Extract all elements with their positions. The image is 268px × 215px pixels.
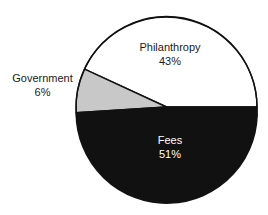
pie-label-philanthropy-value: 43% [110, 54, 230, 68]
pie-label-fees-name: Fees [120, 133, 220, 147]
pie-label-government-name: Government [0, 71, 85, 85]
pie-label-fees: Fees 51% [120, 133, 220, 161]
pie-label-fees-value: 51% [120, 147, 220, 161]
cropped-title-fragment [74, 0, 90, 3]
pie-chart-graphic [0, 0, 268, 215]
pie-label-philanthropy: Philanthropy 43% [110, 40, 230, 68]
pie-chart: Philanthropy 43% Government 6% Fees 51% [0, 0, 268, 215]
pie-label-philanthropy-name: Philanthropy [110, 40, 230, 54]
pie-label-government: Government 6% [0, 71, 85, 99]
pie-label-government-value: 6% [0, 85, 85, 99]
